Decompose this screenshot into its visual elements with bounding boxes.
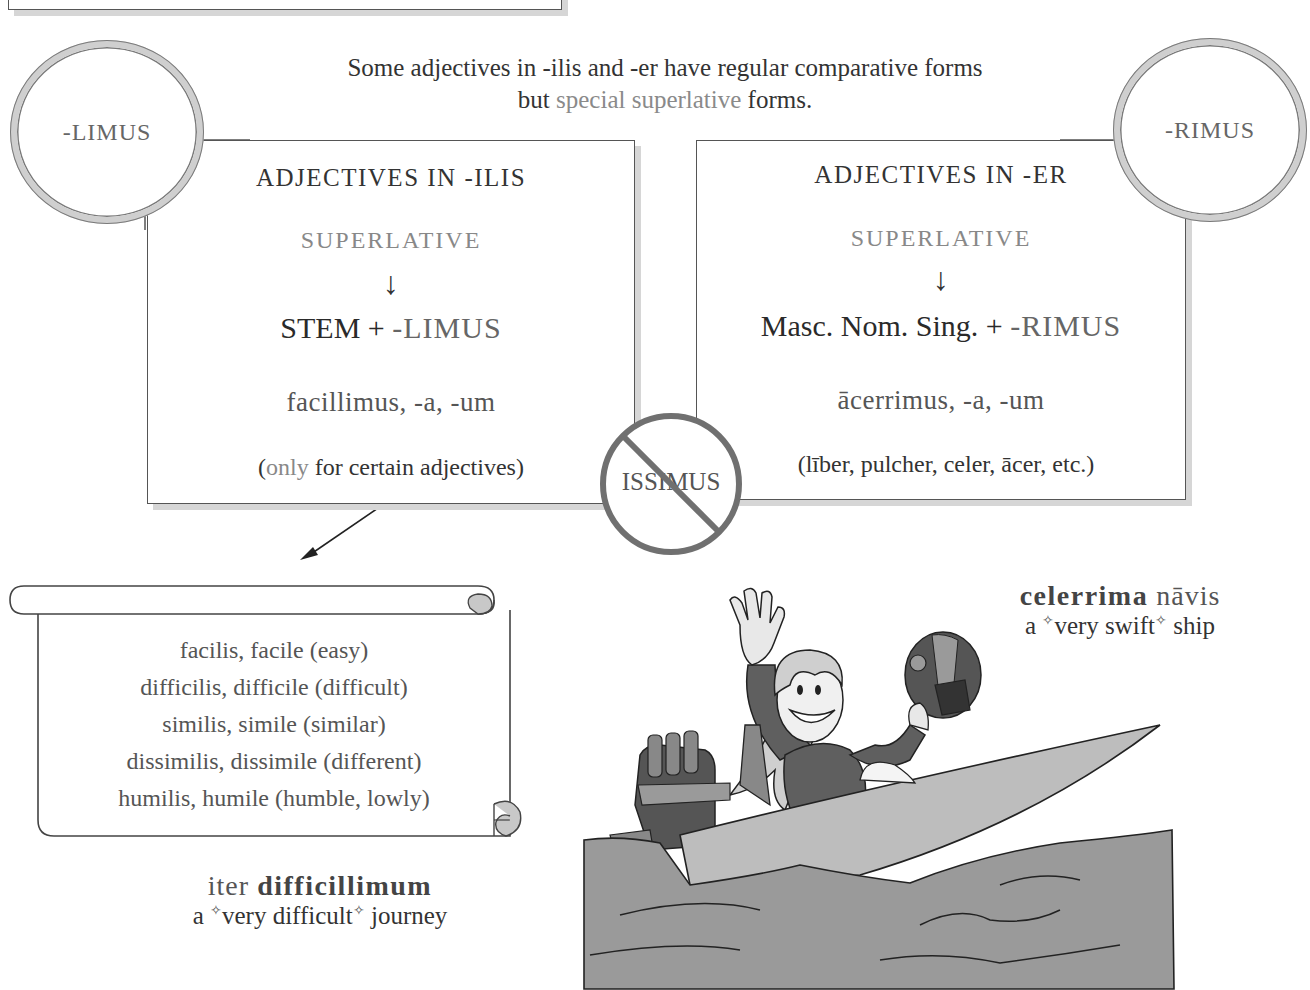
scroll-word-list: facilis, facile (easy) difficilis, diffi… xyxy=(38,632,510,817)
down-arrow-icon: ↓ xyxy=(697,261,1185,298)
rimus-badge-label: -RIMUS xyxy=(1165,117,1255,144)
panel-er-heading: ADJECTIVES IN -ER xyxy=(697,161,1185,189)
sparkle-icon: ✧ xyxy=(353,903,365,918)
list-item: similis, simile (similar) xyxy=(38,706,510,743)
list-item: dissimilis, dissimile (different) xyxy=(38,743,510,780)
formula-suffix: -LIMUS xyxy=(392,311,501,344)
panel-ilis-heading: ADJECTIVES IN -ILIS xyxy=(148,164,634,192)
translation-post: journey xyxy=(365,902,448,929)
speedboat-illustration xyxy=(580,585,1180,990)
panel-ilis-example: facillimus, -a, -um xyxy=(148,387,634,418)
no-issimus-sign: ISSIMUS xyxy=(597,410,745,558)
sparkle-icon: ✧ xyxy=(210,903,222,918)
prohibited-slash xyxy=(597,410,745,558)
translation-emphasis: very difficult xyxy=(222,902,353,929)
panel-er-note: (līber, pulcher, celer, ācer, etc.) xyxy=(697,451,1185,478)
example-difficillimum: iter difficillimum a ✧very difficult✧ jo… xyxy=(80,870,560,930)
list-item: humilis, humile (humble, lowly) xyxy=(38,780,510,817)
panel-ilis-subheading: SUPERLATIVE xyxy=(148,227,634,254)
translation-pre: a xyxy=(193,902,210,929)
panel-er: ADJECTIVES IN -ER SUPERLATIVE ↓ Masc. No… xyxy=(696,140,1186,500)
latin-bold: difficillimum xyxy=(257,870,432,901)
note-rest: for certain adjectives) xyxy=(309,454,524,480)
waving-hand-icon xyxy=(730,588,784,665)
formula-base: Masc. Nom. Sing. + xyxy=(761,309,1010,342)
panel-ilis: ADJECTIVES IN -ILIS SUPERLATIVE ↓ STEM +… xyxy=(147,140,635,504)
panel-ilis-formula: STEM + -LIMUS xyxy=(148,311,634,345)
rimus-badge: -RIMUS xyxy=(1113,38,1307,222)
note-highlight: only xyxy=(266,454,309,480)
note-rest: (līber, pulcher, celer, ācer, etc.) xyxy=(798,451,1095,477)
example-translation: a ✧very difficult✧ journey xyxy=(80,902,560,930)
list-item: difficilis, difficile (difficult) xyxy=(38,669,510,706)
list-item: facilis, facile (easy) xyxy=(38,632,510,669)
example-latin: iter difficillimum xyxy=(80,870,560,902)
panel-ilis-note: (only for certain adjectives) xyxy=(148,454,634,481)
formula-suffix: -RIMUS xyxy=(1010,309,1121,342)
panel-er-subheading: SUPERLATIVE xyxy=(697,225,1185,252)
formula-base: STEM + xyxy=(280,311,392,344)
panel-er-example: ācerrimus, -a, -um xyxy=(697,385,1185,416)
pointer-arrowhead xyxy=(300,547,318,560)
latin-plain: iter xyxy=(208,870,257,901)
limus-badge: -LIMUS xyxy=(10,40,204,224)
limus-badge-label: -LIMUS xyxy=(63,119,152,146)
note-open: ( xyxy=(258,454,266,480)
down-arrow-icon: ↓ xyxy=(148,265,634,302)
panel-er-formula: Masc. Nom. Sing. + -RIMUS xyxy=(697,309,1185,343)
